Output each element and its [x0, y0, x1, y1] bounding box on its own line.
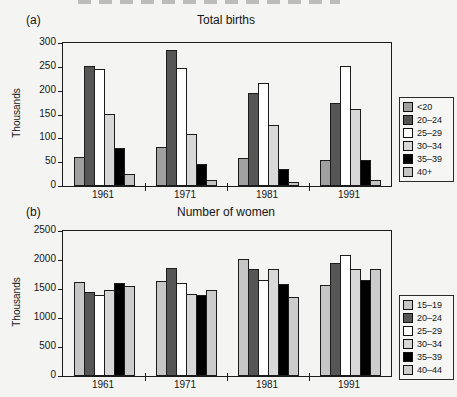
x-tick-label-1961: 1961 — [62, 379, 144, 390]
legend-label: <20 — [417, 102, 432, 112]
bar-group-1971 — [145, 268, 227, 376]
chart-title-total-births: Total births — [62, 13, 390, 27]
legend-swatch-20–24 — [403, 313, 413, 323]
y-axis-a: 300250200150100500 — [22, 42, 58, 185]
legend-label: 30–34 — [417, 339, 442, 349]
legend-swatch-30–34 — [403, 339, 413, 349]
bar-40+-1971 — [206, 180, 217, 186]
bar-40+-1961 — [124, 174, 135, 186]
x-axis-a: 1961197119811991 — [62, 189, 390, 200]
y-tick-label: 300 — [20, 37, 56, 47]
legend-label: 40–44 — [417, 365, 442, 375]
y-tick-label: 200 — [20, 85, 56, 95]
legend-swatch-25–29 — [403, 326, 413, 336]
bar-40+-1991 — [370, 180, 381, 186]
scanned-figure-page: (a) Total births Thousands 3002502001501… — [0, 0, 457, 397]
y-tick-mark — [58, 260, 63, 261]
panel-label-b: (b) — [26, 205, 41, 219]
legend-item-20–24: 20–24 — [403, 313, 450, 323]
legend-swatch-40–44 — [403, 365, 413, 375]
legend-label: 30–34 — [417, 141, 442, 151]
legend-label: 25–29 — [417, 128, 442, 138]
legend-item-35–39: 35–39 — [403, 154, 450, 164]
y-tick-label: 500 — [20, 341, 56, 351]
y-tick-label: 250 — [20, 61, 56, 71]
legend-swatch-35–39 — [403, 154, 413, 164]
x-tick-label-1981: 1981 — [226, 189, 308, 200]
y-tick-mark — [58, 43, 63, 44]
legend-swatch-30–34 — [403, 141, 413, 151]
legend-item-15–19: 15–19 — [403, 300, 450, 310]
legend-label: 15–19 — [417, 300, 442, 310]
bar-40–44-1961 — [124, 286, 135, 376]
y-tick-mark — [58, 376, 63, 377]
x-tick-label-1991: 1991 — [308, 189, 390, 200]
legend-swatch-15–19 — [403, 300, 413, 310]
legend-swatch-20–24 — [403, 115, 413, 125]
chart-title-number-of-women: Number of women — [62, 205, 390, 219]
legend-label: 25–29 — [417, 326, 442, 336]
legend-label: 35–39 — [417, 352, 442, 362]
legend-item-20–24: 20–24 — [403, 115, 450, 125]
bar-40–44-1991 — [370, 269, 381, 376]
legend-swatch-<20 — [403, 102, 413, 112]
legend-item-25–29: 25–29 — [403, 128, 450, 138]
legend-label: 40+ — [417, 167, 432, 177]
y-tick-label: 2500 — [20, 225, 56, 235]
legend-item-40+: 40+ — [403, 167, 450, 177]
cropped-text-remnant — [78, 0, 340, 4]
legend-box-b: 15–1920–2425–2930–3435–3940–44 — [399, 295, 454, 380]
bar-group-1961 — [63, 282, 145, 376]
x-tick-label-1991: 1991 — [308, 379, 390, 390]
bar-group-1961 — [63, 66, 145, 186]
legend-box-a: <2020–2425–2930–3435–3940+ — [399, 97, 454, 182]
legend-item-25–29: 25–29 — [403, 326, 450, 336]
y-tick-label: 100 — [20, 132, 56, 142]
y-tick-mark — [58, 231, 63, 232]
x-tick-label-1981: 1981 — [226, 379, 308, 390]
bar-40–44-1971 — [206, 290, 217, 376]
y-tick-label: 0 — [20, 370, 56, 380]
bar-group-1991 — [309, 255, 391, 376]
x-tick-label-1971: 1971 — [144, 379, 226, 390]
y-tick-mark — [58, 186, 63, 187]
bar-group-1981 — [227, 259, 309, 376]
legend-label: 35–39 — [417, 154, 442, 164]
y-tick-label: 1500 — [20, 283, 56, 293]
legend-swatch-25–29 — [403, 128, 413, 138]
y-axis-b: 25002000150010005000 — [22, 230, 58, 375]
x-axis-b: 1961197119811991 — [62, 379, 390, 390]
bar-40–44-1981 — [288, 297, 299, 376]
legend-item-35–39: 35–39 — [403, 352, 450, 362]
plot-area-number-of-women — [62, 230, 392, 377]
legend-item-<20: <20 — [403, 102, 450, 112]
y-tick-label: 50 — [20, 156, 56, 166]
legend-item-30–34: 30–34 — [403, 339, 450, 349]
bar-group-1981 — [227, 83, 309, 186]
y-tick-label: 1000 — [20, 312, 56, 322]
y-tick-label: 0 — [20, 180, 56, 190]
legend-label: 20–24 — [417, 313, 442, 323]
legend-item-30–34: 30–34 — [403, 141, 450, 151]
bar-40+-1981 — [288, 182, 299, 186]
bar-group-1971 — [145, 50, 227, 186]
y-tick-label: 150 — [20, 109, 56, 119]
x-tick-label-1961: 1961 — [62, 189, 144, 200]
legend-swatch-40+ — [403, 167, 413, 177]
bar-group-1991 — [309, 66, 391, 186]
legend-swatch-35–39 — [403, 352, 413, 362]
panel-label-a: (a) — [26, 13, 41, 27]
legend-item-40–44: 40–44 — [403, 365, 450, 375]
y-tick-label: 2000 — [20, 254, 56, 264]
plot-area-total-births — [62, 42, 392, 187]
x-tick-label-1971: 1971 — [144, 189, 226, 200]
legend-label: 20–24 — [417, 115, 442, 125]
